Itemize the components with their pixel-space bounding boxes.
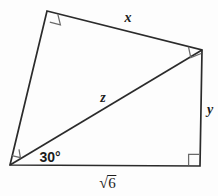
label-side-y: y	[207, 103, 213, 117]
quadrilateral-outline	[10, 11, 202, 166]
right-angle-top-left-icon	[50, 14, 61, 25]
diagonal-line-z	[10, 50, 202, 165]
label-side-x: x	[125, 11, 132, 25]
radical-expression: √6	[99, 175, 116, 191]
label-side-sqrt6: √6	[99, 175, 116, 191]
right-angle-bottom-right-icon	[189, 154, 200, 165]
geometry-figure: x y z 30° √6	[0, 0, 218, 196]
geometry-canvas	[0, 0, 218, 196]
label-angle-30: 30°	[39, 150, 60, 164]
label-diagonal-z: z	[100, 91, 105, 105]
radicand-value: 6	[107, 175, 117, 191]
